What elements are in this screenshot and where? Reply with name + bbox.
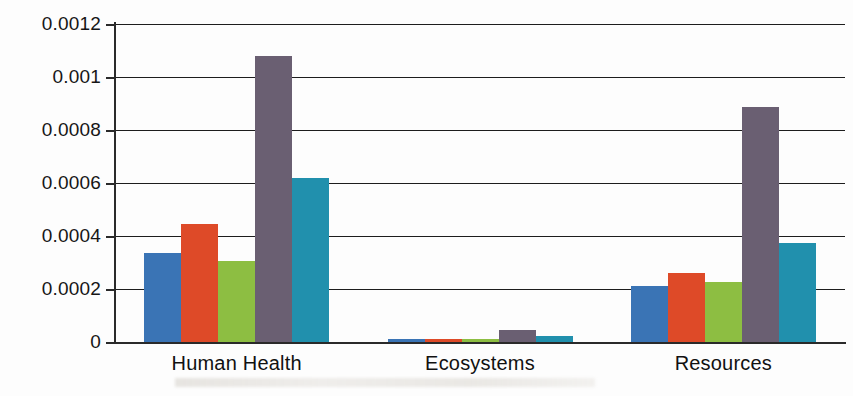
y-axis-tick-label: 0.0002 — [42, 278, 101, 300]
bar — [218, 261, 255, 342]
plot-area — [115, 24, 845, 342]
y-axis-tick — [106, 236, 115, 238]
bar — [292, 178, 329, 342]
bar — [181, 224, 218, 342]
x-axis-category-label: Human Health — [172, 352, 302, 375]
bar — [144, 253, 181, 342]
y-axis-tick — [106, 77, 115, 79]
y-axis-tick — [106, 342, 115, 344]
y-axis-tick-label: 0.0008 — [42, 119, 101, 141]
bar-group — [388, 24, 573, 342]
y-axis-tick-label: 0.001 — [52, 66, 101, 88]
y-axis-tick-label: 0 — [90, 331, 101, 353]
y-axis-tick-label: 0.0006 — [42, 172, 101, 194]
bar — [705, 282, 742, 342]
bar — [499, 330, 536, 342]
bar-chart: 0.00120.0010.00080.00060.00040.00020 Hum… — [0, 0, 853, 396]
y-axis-tick — [106, 130, 115, 132]
bar — [742, 107, 779, 342]
y-axis-tick-label: 0.0004 — [42, 225, 101, 247]
bar — [631, 286, 668, 342]
x-axis-line — [114, 342, 846, 344]
y-axis-tick — [106, 24, 115, 26]
bar-group — [631, 24, 816, 342]
bar — [779, 243, 816, 342]
y-axis-tick-label: 0.0012 — [42, 13, 101, 35]
y-axis-tick — [106, 183, 115, 185]
y-axis-labels: 0.00120.0010.00080.00060.00040.00020 — [0, 0, 101, 396]
x-axis-category-label: Ecosystems — [425, 352, 535, 375]
bar-group — [144, 24, 329, 342]
x-axis-category-label: Resources — [675, 352, 772, 375]
bar — [255, 56, 292, 342]
y-axis-tick — [106, 289, 115, 291]
bar — [668, 273, 705, 342]
scan-artifact — [175, 378, 595, 387]
